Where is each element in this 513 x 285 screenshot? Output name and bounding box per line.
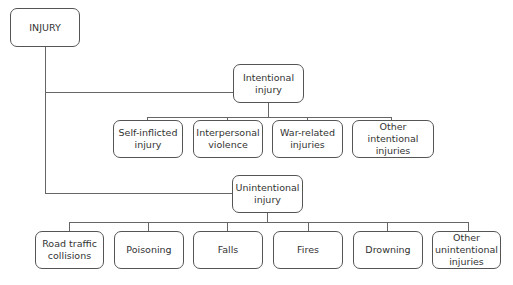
node-war-related-injuries: War-related injuries xyxy=(272,120,343,158)
connector xyxy=(468,222,469,231)
connector xyxy=(45,92,233,93)
connector xyxy=(227,222,228,231)
node-fires: Fires xyxy=(273,231,343,269)
node-unintentional-injury: Unintentional injury xyxy=(232,175,303,213)
node-intentional-injury: Intentional injury xyxy=(233,64,304,103)
connector xyxy=(267,212,268,222)
connector xyxy=(148,222,149,231)
node-other-intentional-injuries: Other intentional injuries xyxy=(352,120,434,158)
connector xyxy=(387,222,388,231)
node-self-inflicted-injury: Self-inflicted injury xyxy=(113,120,183,158)
node-other-unintentional-injuries: Other unintentional injuries xyxy=(432,231,501,269)
connector xyxy=(147,117,392,118)
connector xyxy=(69,222,70,231)
node-injury: INJURY xyxy=(10,8,80,47)
connector xyxy=(308,222,309,231)
connector xyxy=(268,102,269,117)
node-falls: Falls xyxy=(193,231,263,269)
node-interpersonal-violence: Interpersonal violence xyxy=(193,120,263,158)
node-poisoning: Poisoning xyxy=(114,231,184,269)
connector xyxy=(45,46,46,194)
connector xyxy=(69,222,469,223)
connector xyxy=(45,193,232,194)
node-drowning: Drowning xyxy=(353,231,423,269)
node-road-traffic-collisions: Road traffic collisions xyxy=(35,231,104,269)
